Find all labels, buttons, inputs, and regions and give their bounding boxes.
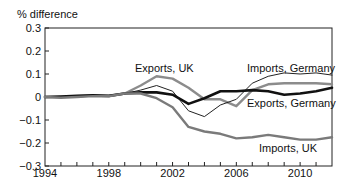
y-tick-label: 0.3 <box>26 22 41 34</box>
line-chart: −0.3−0.2−0.100.10.20.3199419982002200620… <box>0 0 347 188</box>
y-tick-label: −0.2 <box>19 137 41 149</box>
x-tick-label: 1998 <box>97 167 121 179</box>
x-tick-label: 2002 <box>160 167 184 179</box>
series-label: Exports, UK <box>135 62 194 74</box>
y-tick-label: 0.1 <box>26 68 41 80</box>
y-tick-label: 0 <box>35 91 41 103</box>
y-tick-label: 0.2 <box>26 45 41 57</box>
y-tick-label: −0.1 <box>19 114 41 126</box>
series-label: Exports, Germany <box>247 97 336 109</box>
series-label: Imports, Germany <box>247 62 336 74</box>
x-tick-label: 2006 <box>224 167 248 179</box>
x-tick-label: 2010 <box>288 167 312 179</box>
x-tick-label: 1994 <box>33 167 57 179</box>
series-label: Imports, UK <box>259 142 318 154</box>
